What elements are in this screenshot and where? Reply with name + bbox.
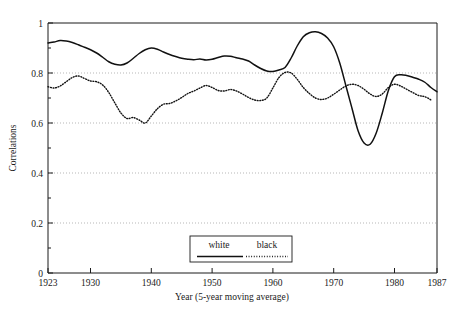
y-tick-label: 0.8 <box>31 69 43 79</box>
legend-label-white: white <box>208 240 229 250</box>
x-tick-label: 1970 <box>324 278 343 288</box>
legend: white black <box>190 236 292 262</box>
x-tick-marks <box>48 268 437 273</box>
legend-label-black: black <box>257 240 278 250</box>
y-tick-label: 0.2 <box>31 219 43 229</box>
y-tick-label: 1 <box>38 19 43 29</box>
y-tick-marks <box>48 23 53 273</box>
chart-svg: 1 0.8 0.6 0.4 0.2 0 1923 1930 1940 1950 … <box>0 0 465 315</box>
x-axis-title: Year (5-year moving average) <box>175 292 289 303</box>
y-tick-label: 0.4 <box>31 169 43 179</box>
y-tick-label: 0.6 <box>31 119 43 129</box>
correlations-line-chart: 1 0.8 0.6 0.4 0.2 0 1923 1930 1940 1950 … <box>0 0 465 315</box>
x-tick-label: 1960 <box>263 278 282 288</box>
x-tick-label: 1940 <box>142 278 161 288</box>
y-tick-labels: 1 0.8 0.6 0.4 0.2 0 <box>31 19 43 279</box>
x-tick-labels: 1923 1930 1940 1950 1960 1970 1980 1987 <box>39 278 447 288</box>
x-tick-label: 1930 <box>81 278 100 288</box>
series-line-black <box>48 72 431 123</box>
x-tick-label: 1980 <box>385 278 404 288</box>
x-tick-label: 1950 <box>203 278 222 288</box>
x-tick-label: 1923 <box>39 278 58 288</box>
x-tick-label: 1987 <box>428 278 447 288</box>
y-axis-title: Correlations <box>8 124 18 171</box>
